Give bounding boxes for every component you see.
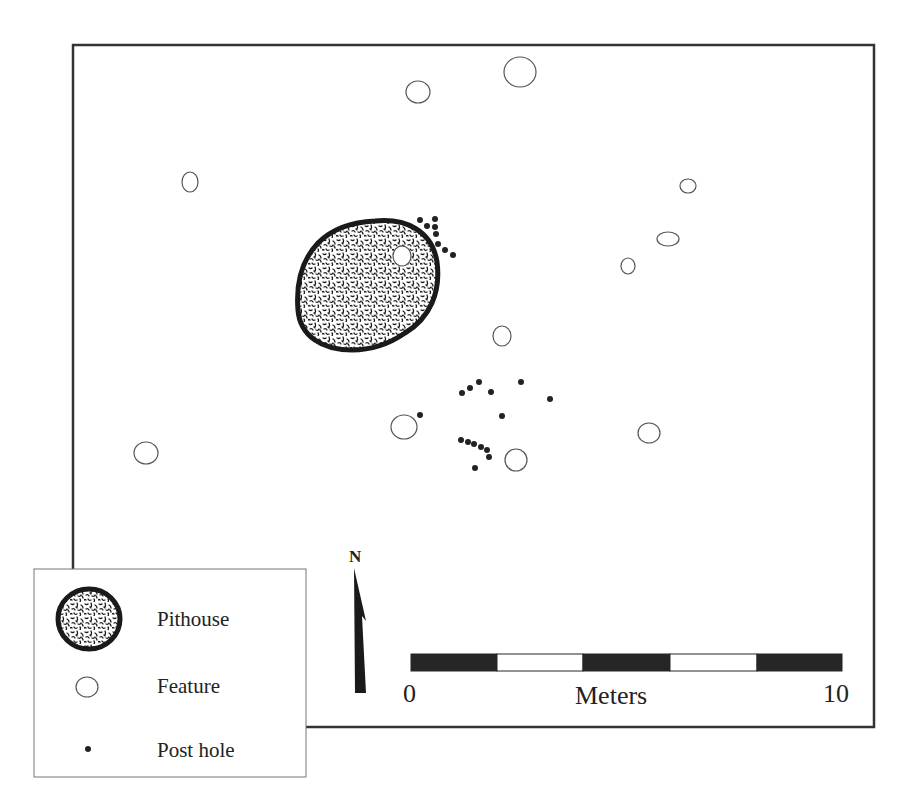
legend-label-pithouse: Pithouse — [157, 607, 229, 631]
site-plan-map: N 0 Meters 10 Pithouse Feature Post hole — [0, 0, 911, 805]
post-hole-16 — [417, 412, 423, 418]
post-hole-20 — [478, 444, 484, 450]
post-hole-14 — [547, 396, 553, 402]
scale-segment-1 — [411, 654, 497, 671]
post-hole-17 — [458, 437, 464, 443]
post-hole-4 — [432, 224, 438, 230]
feature-10 — [505, 449, 527, 471]
scale-start-label: 0 — [403, 679, 416, 708]
legend-label-post-hole: Post hole — [157, 738, 235, 762]
post-hole-12 — [488, 389, 494, 395]
pithouse — [298, 221, 438, 350]
scale-bar: 0 Meters 10 — [403, 654, 849, 710]
scale-end-label: 10 — [823, 679, 849, 708]
post-hole-18 — [465, 439, 471, 445]
scale-unit-label: Meters — [575, 681, 647, 710]
legend: Pithouse Feature Post hole — [34, 569, 306, 777]
feature-symbol-icon — [76, 677, 98, 697]
post-hole-1 — [417, 217, 423, 223]
scale-segment-3 — [583, 654, 670, 671]
feature-6 — [621, 258, 635, 274]
legend-label-feature: Feature — [157, 674, 220, 698]
feature-4 — [680, 179, 696, 193]
post-hole-13 — [518, 379, 524, 385]
pithouse-interior-feature — [393, 246, 411, 266]
feature-1 — [406, 81, 430, 103]
post-hole-10 — [467, 385, 473, 391]
feature-11 — [134, 442, 158, 464]
pithouse-symbol-icon — [58, 589, 120, 649]
scale-segment-4 — [670, 654, 757, 671]
feature-2 — [504, 57, 536, 87]
post-hole-22 — [486, 454, 492, 460]
post-hole-15 — [499, 413, 505, 419]
post-hole-2 — [424, 223, 430, 229]
post-hole-symbol-icon — [85, 746, 91, 752]
post-hole-5 — [433, 231, 439, 237]
post-hole-11 — [476, 379, 482, 385]
post-hole-6 — [435, 241, 441, 247]
scale-segment-5 — [757, 654, 842, 671]
post-hole-3 — [432, 216, 438, 222]
post-hole-23 — [472, 465, 478, 471]
feature-9 — [638, 423, 660, 443]
feature-5 — [657, 232, 679, 246]
post-hole-21 — [484, 447, 490, 453]
north-label: N — [349, 547, 362, 566]
feature-8 — [391, 415, 417, 439]
pithouse-outline — [298, 221, 438, 350]
post-hole-7 — [442, 247, 448, 253]
north-arrow: N — [349, 547, 366, 693]
post-hole-9 — [459, 390, 465, 396]
feature-7 — [493, 326, 511, 346]
feature-3 — [182, 172, 198, 192]
post-hole-19 — [471, 441, 477, 447]
post-hole-8 — [450, 252, 456, 258]
north-arrow-icon — [354, 568, 366, 693]
scale-segment-2 — [497, 654, 583, 671]
